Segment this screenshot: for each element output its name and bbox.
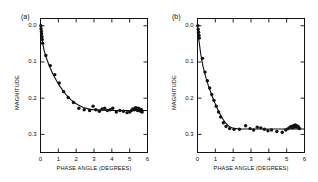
y-tick-label: 0.0 <box>15 22 37 28</box>
x-tick-label: 3 <box>243 156 259 162</box>
data-point <box>244 124 247 127</box>
data-point <box>58 81 61 84</box>
x-tick-label: 1 <box>207 156 223 162</box>
data-point <box>197 31 200 34</box>
data-point <box>140 110 143 113</box>
data-point <box>98 110 101 113</box>
panel-b: (b) MAGNITUDE PHASE ANGLE (DEGREES) 0123… <box>159 0 318 182</box>
x-axis-title-b: PHASE ANGLE (DEGREES) <box>181 165 318 171</box>
data-point <box>266 129 269 132</box>
data-point <box>212 99 215 102</box>
y-axis-title-a: MAGNITUDE <box>14 75 20 110</box>
x-tick-label: 3 <box>86 156 102 162</box>
data-point <box>215 104 218 107</box>
data-point <box>111 107 114 110</box>
data-point <box>206 79 209 82</box>
data-point <box>91 104 94 107</box>
y-tick-label: 0.2 <box>15 95 37 101</box>
data-point <box>224 125 227 128</box>
data-point <box>40 32 43 35</box>
data-point <box>44 54 47 57</box>
data-point <box>219 115 222 118</box>
data-point <box>197 28 200 31</box>
y-tick-label: 0.1 <box>172 58 194 64</box>
data-point <box>201 57 204 60</box>
data-point <box>248 127 251 130</box>
fit-curve-b <box>198 26 305 129</box>
x-tick-label: 4 <box>261 156 277 162</box>
x-tick-label: 5 <box>279 156 295 162</box>
data-point <box>82 108 85 111</box>
data-point <box>39 24 42 27</box>
data-point <box>94 108 97 111</box>
y-axis-title-b: MAGNITUDE <box>171 75 177 110</box>
x-tick-label: 6 <box>140 156 156 162</box>
data-point <box>197 33 200 36</box>
x-tick-label: 2 <box>68 156 84 162</box>
y-tick-label: 0.0 <box>172 22 194 28</box>
data-point <box>252 128 255 131</box>
data-point <box>238 128 241 131</box>
x-tick-label: 4 <box>104 156 120 162</box>
data-points-b <box>196 24 301 134</box>
y-tick-label: 0.1 <box>15 58 37 64</box>
data-point <box>40 35 43 38</box>
x-tick-label: 0 <box>33 156 49 162</box>
data-point <box>39 27 42 30</box>
plot-frame-a <box>41 19 148 153</box>
data-point <box>263 128 266 131</box>
data-point <box>122 110 125 113</box>
data-point <box>72 101 75 104</box>
data-point <box>41 38 44 41</box>
data-point <box>77 107 80 110</box>
data-point <box>275 130 278 133</box>
data-point <box>232 128 235 131</box>
data-point <box>53 73 56 76</box>
fit-curve-a <box>41 26 148 111</box>
data-point <box>62 90 65 93</box>
data-point <box>41 41 44 44</box>
data-point <box>210 93 213 96</box>
data-point <box>203 70 206 73</box>
data-point <box>259 126 262 129</box>
data-point <box>103 107 106 110</box>
x-tick-label: 1 <box>50 156 66 162</box>
data-point <box>118 109 121 112</box>
data-point <box>88 109 91 112</box>
x-axis-title-a: PHASE ANGLE (DEGREES) <box>24 165 164 171</box>
data-point <box>228 127 231 130</box>
data-point <box>49 64 52 67</box>
data-point <box>298 127 301 130</box>
plot-frame-b <box>198 19 305 153</box>
data-point <box>270 128 273 131</box>
data-points-a <box>39 24 144 114</box>
y-tick-label: 0.3 <box>15 131 37 137</box>
data-point <box>256 125 259 128</box>
phase-curve-figure: (a) MAGNITUDE PHASE ANGLE (DEGREES) 0123… <box>0 0 318 182</box>
data-point <box>222 121 225 124</box>
data-point <box>66 96 69 99</box>
axis-ticks-a <box>41 19 148 153</box>
data-point <box>115 110 118 113</box>
data-point <box>196 24 199 27</box>
data-point <box>198 36 201 39</box>
x-tick-label: 0 <box>190 156 206 162</box>
x-tick-label: 2 <box>225 156 241 162</box>
y-tick-label: 0.2 <box>172 95 194 101</box>
axis-ticks-b <box>198 19 305 153</box>
data-point <box>281 131 284 134</box>
x-tick-label: 5 <box>122 156 138 162</box>
panel-a: (a) MAGNITUDE PHASE ANGLE (DEGREES) 0123… <box>0 0 159 182</box>
x-tick-label: 6 <box>297 156 313 162</box>
data-point <box>208 86 211 89</box>
y-tick-label: 0.3 <box>172 131 194 137</box>
data-point <box>217 110 220 113</box>
